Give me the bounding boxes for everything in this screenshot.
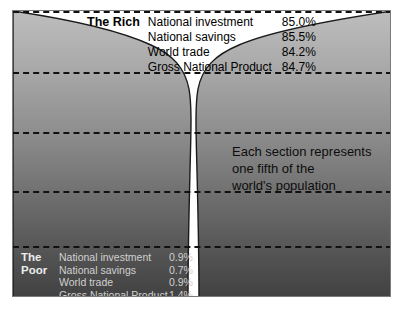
rich-stat-value: 85.0% (282, 15, 316, 30)
poor-label: The Poor (21, 251, 59, 276)
poor-stat-row: Gross National Product 1.4% (59, 289, 193, 298)
poor-group: The Poor National investment 0.9% Nation… (21, 251, 193, 297)
poor-stat-row: National investment 0.9% (59, 251, 193, 264)
rich-stat-row: National savings 85.5% (148, 30, 316, 45)
poor-stat-label: National investment (59, 251, 169, 264)
poor-label-line-1: The (21, 251, 59, 264)
rich-stat-row: National investment 85.0% (148, 15, 316, 30)
poor-stat-label: World trade (59, 276, 169, 289)
rich-stat-value: 84.2% (282, 45, 316, 60)
poor-stat-value: 1.4% (169, 289, 193, 298)
poor-stat-value: 0.9% (169, 251, 193, 264)
poor-stat-value: 0.9% (169, 276, 193, 289)
section-note: Each section represents one fifth of the… (232, 143, 371, 194)
rich-stat-label: National savings (148, 30, 282, 45)
rich-stat-label: World trade (148, 45, 282, 60)
rich-stat-value: 85.5% (282, 30, 316, 45)
champagne-glass-chart: The Rich National investment 85.0% Natio… (0, 0, 404, 317)
rich-stat-value: 84.7% (282, 60, 316, 75)
section-note-line-3: world's population (232, 177, 371, 194)
poor-stat-value: 0.7% (169, 264, 193, 277)
rich-stat-row: World trade 84.2% (148, 45, 316, 60)
poor-label-line-2: Poor (21, 264, 59, 277)
section-note-line-1: Each section represents (232, 143, 371, 160)
section-note-line-2: one fifth of the (232, 160, 371, 177)
rich-group: The Rich National investment 85.0% Natio… (87, 15, 316, 75)
rich-stat-label: Gross National Product (148, 60, 282, 75)
poor-stat-row: World trade 0.9% (59, 276, 193, 289)
poor-stat-label: Gross National Product (59, 289, 169, 298)
rich-stat-row: Gross National Product 84.7% (148, 60, 316, 75)
chart-frame: The Rich National investment 85.0% Natio… (12, 10, 391, 297)
rich-label: The Rich (87, 15, 148, 30)
rich-stat-label: National investment (148, 15, 282, 30)
poor-stat-label: National savings (59, 264, 169, 277)
rich-stat-list: National investment 85.0% National savin… (148, 15, 316, 75)
poor-stat-row: National savings 0.7% (59, 264, 193, 277)
poor-stat-list: National investment 0.9% National saving… (59, 251, 193, 297)
